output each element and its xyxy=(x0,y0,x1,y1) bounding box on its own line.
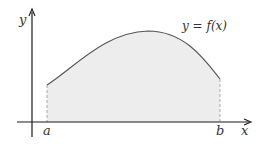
curve-label: y = f(x) xyxy=(181,19,227,33)
shaded-area xyxy=(47,31,220,122)
upper-bound-label: b xyxy=(216,123,224,138)
area-under-curve-diagram: y x a b y = f(x) xyxy=(0,0,266,145)
lower-bound-label: a xyxy=(43,123,51,138)
x-axis-label: x xyxy=(241,123,249,138)
y-axis-label: y xyxy=(18,12,27,27)
